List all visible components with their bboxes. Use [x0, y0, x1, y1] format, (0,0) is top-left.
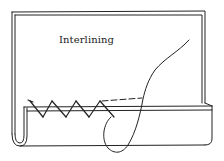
diagram-canvas: Interlining — [0, 0, 224, 161]
sewing-illustration — [0, 0, 224, 161]
interlining-panel — [12, 11, 205, 134]
hidden-thread — [102, 98, 142, 101]
needle-thread — [104, 40, 189, 152]
catch-stitches — [28, 100, 114, 117]
folded-hem — [12, 103, 212, 146]
interlining-label: Interlining — [59, 34, 114, 45]
